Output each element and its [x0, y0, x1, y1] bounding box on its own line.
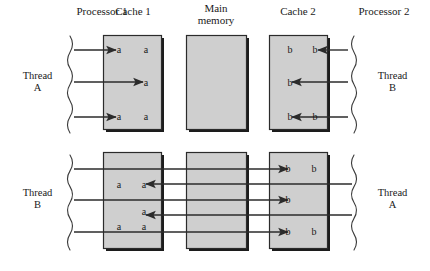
thread-label-top-right-word: Thread [365, 70, 420, 82]
thread-label-top-left-word: Thread [10, 70, 65, 82]
thread-label-top-left: ThreadA [10, 70, 65, 94]
brace-bottom-right [352, 155, 357, 250]
diagram-graphics [0, 0, 430, 271]
header-processor-2: Processor 2 [345, 5, 423, 17]
header-main-memory: Mainmemory [186, 2, 246, 27]
cache-cell-c1-a-r1b: a [141, 44, 151, 55]
main-memory-top-box [187, 36, 247, 130]
thread-label-bottom-left: ThreadB [10, 187, 65, 211]
header-main-memory-line1: Main [186, 2, 246, 14]
cache-cell-c1-a-r1a: a [114, 44, 124, 55]
cache-cell-c1-a-b3a: a [114, 221, 124, 232]
cache-cell-c1-a-b2: a [139, 206, 149, 217]
thread-label-top-right-id: B [365, 82, 420, 94]
cache-cell-c2-b-b1a: b [283, 163, 293, 174]
cache-cell-c1-a-b3b: a [139, 221, 149, 232]
header-cache-1: Cache 1 [103, 5, 163, 17]
cache-cell-c2-b-r3a: b [285, 111, 295, 122]
thread-label-bottom-right: ThreadA [365, 187, 420, 211]
cache-cell-c1-a-r3b: a [141, 111, 151, 122]
header-cache-2: Cache 2 [268, 5, 328, 17]
cache-cell-c1-a-b1a: a [114, 179, 124, 190]
thread-label-bottom-right-word: Thread [365, 187, 420, 199]
cache-cell-c2-b-b2: b [283, 194, 293, 205]
thread-label-bottom-left-id: B [10, 199, 65, 211]
cache-cell-c2-b-r3b: b [310, 111, 320, 122]
header-main-memory-line2: memory [186, 14, 246, 26]
brace-top-right [352, 36, 357, 133]
thread-label-bottom-right-id: A [365, 199, 420, 211]
cache-cell-c1-a-b1b: a [139, 179, 149, 190]
cache-cell-c2-b-r2: b [285, 77, 295, 88]
cache-cell-c2-b-b3b: b [309, 226, 319, 237]
thread-label-top-left-id: A [10, 82, 65, 94]
cache-cell-c1-a-r3a: a [114, 111, 124, 122]
cache-cell-c2-b-b3a: b [283, 226, 293, 237]
cache-cell-c2-b-b1b: b [309, 163, 319, 174]
diagram-canvas: Processor 1Cache 1MainmemoryCache 2Proce… [0, 0, 430, 271]
cache-cell-c2-b-r1a: b [285, 44, 295, 55]
brace-bottom-left [68, 155, 73, 250]
cache-cell-c1-a-r2: a [141, 77, 151, 88]
thread-label-top-right: ThreadB [365, 70, 420, 94]
thread-label-bottom-left-word: Thread [10, 187, 65, 199]
brace-top-left [68, 36, 73, 133]
cache-cell-c2-b-r1b: b [310, 44, 320, 55]
